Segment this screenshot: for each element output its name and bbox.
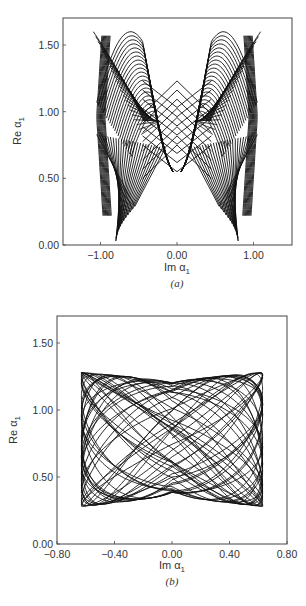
figure: −1.000.001.000.000.501.001.50 Re α1 Im α… [0, 0, 306, 606]
panel-a: −1.000.001.000.000.501.001.50 Re α1 Im α… [11, 18, 292, 290]
y-tick-label: 0.50 [39, 172, 60, 184]
y-tick-label: 1.50 [39, 39, 60, 51]
panel-caption-b: (b) [166, 575, 179, 588]
trajectory-curve-b [81, 373, 262, 507]
y-axis-label-a: Re α1 [11, 116, 26, 144]
y-tick-label: 1.00 [33, 404, 54, 416]
panel-b: −0.80−0.400.000.400.800.000.501.001.50 R… [7, 316, 297, 588]
y-tick-label: 1.00 [39, 106, 60, 118]
panel-caption-a: (a) [171, 277, 184, 290]
x-axis-label-b: Im α1 [159, 559, 186, 574]
trajectory-path-a [93, 32, 260, 241]
trajectory-curve-a [93, 32, 260, 241]
x-tick-label: 0.40 [219, 548, 240, 560]
x-tick-label: −1.00 [87, 249, 114, 261]
x-tick-label: −0.40 [101, 548, 128, 560]
axis-ticks-a: −1.000.001.000.000.501.001.50 [39, 39, 264, 261]
y-tick-label: 0.00 [39, 239, 60, 251]
y-tick-label: 0.00 [33, 538, 54, 550]
y-tick-label: 1.50 [33, 337, 54, 349]
x-axis-label-a: Im α1 [164, 261, 191, 276]
y-axis-label-b: Re α1 [7, 415, 22, 443]
y-tick-label: 0.50 [33, 471, 54, 483]
x-tick-label: 0.00 [167, 249, 188, 261]
x-tick-label: 0.80 [277, 548, 298, 560]
x-tick-label: 1.00 [243, 249, 264, 261]
trajectory-path-b [81, 373, 262, 507]
axis-ticks-b: −0.80−0.400.000.400.800.000.501.001.50 [33, 337, 298, 560]
